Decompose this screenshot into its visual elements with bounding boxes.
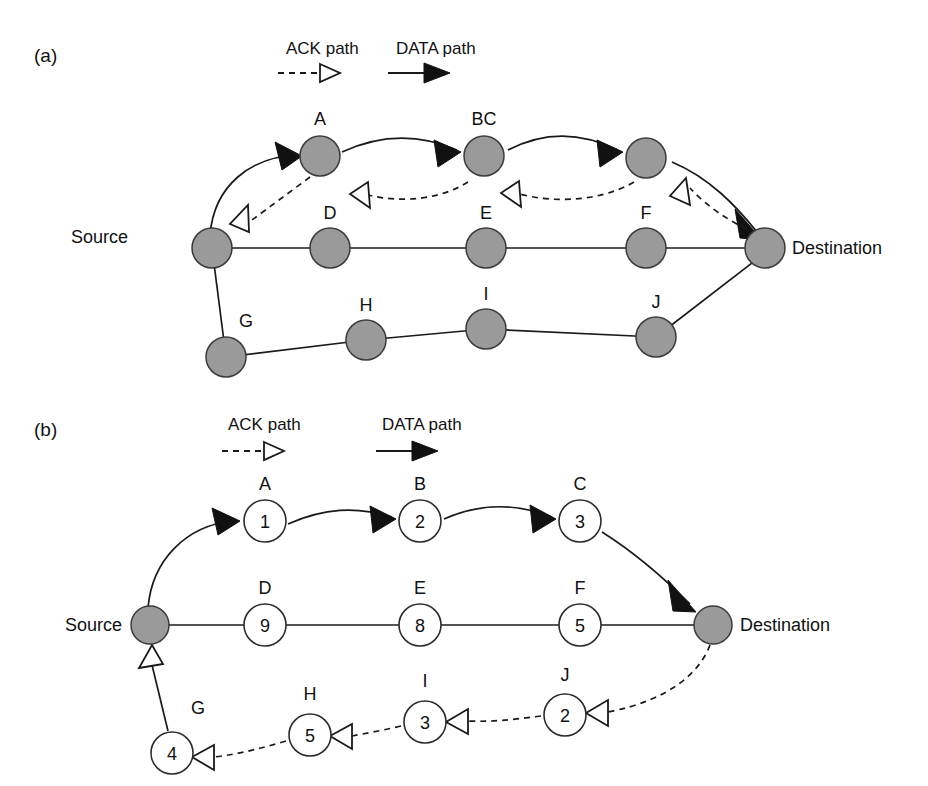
label-b-mid-2: E (414, 578, 426, 598)
node-source-b[interactable] (131, 606, 169, 644)
data-arrow-a-bc (434, 140, 461, 167)
label-a-mid-3: F (641, 203, 652, 223)
ack-edge-b-h-g (214, 741, 286, 757)
ack-edge-bc-a (368, 182, 468, 199)
label-b-bot-4: J (561, 665, 570, 685)
data-arrow-b-c-destination (668, 580, 696, 612)
label-a-top-1: A (314, 109, 326, 129)
ack-arrow-b-h-g (192, 745, 214, 770)
panel-a: (a) ACK path DATA path (34, 39, 882, 377)
data-arrow-b-b-c (530, 505, 556, 533)
label-b-mid-3: F (575, 578, 586, 598)
label-b-top-2: B (414, 474, 426, 494)
ack-arrow-b-j-i (446, 709, 468, 734)
ack-edge-b-i-h (352, 726, 401, 736)
ack-arrow-next-bc (501, 181, 521, 207)
ack-edge-b-j-i (468, 716, 541, 721)
data-arrow-b-source-a (212, 508, 240, 535)
label-a-bot-1: G (239, 311, 253, 331)
ack-arrow-b-i-h (330, 724, 352, 749)
label-a-mid-1: D (324, 203, 337, 223)
ack-arrow-destination-next (670, 178, 690, 205)
label-a-top-2: BC (471, 109, 496, 129)
label-b-top-3: C (574, 474, 587, 494)
figure-canvas: (a) ACK path DATA path (0, 0, 928, 786)
legend-ack-label-b: ACK path (228, 415, 301, 434)
legend-ack-arrow-icon-b (264, 442, 284, 460)
panel-a-legend: ACK path DATA path (278, 39, 476, 83)
label-source-a: Source (71, 227, 128, 247)
label-a-bot-4: J (652, 292, 661, 312)
ack-arrow-b-g-source (139, 645, 163, 668)
node-a-bot-4[interactable] (636, 317, 676, 357)
value-b-mid-2: 8 (415, 616, 425, 636)
data-arrow-bc-next (597, 140, 623, 167)
node-a-top-3[interactable] (626, 138, 666, 178)
edge-g-h (226, 340, 366, 357)
label-destination-b: Destination (740, 615, 830, 635)
legend-data-arrow-icon-b (412, 441, 438, 461)
ack-edge-next-bc (520, 182, 634, 199)
legend-data-label-b: DATA path (382, 415, 462, 434)
value-b-bot-1: 4 (167, 744, 177, 764)
value-b-bot-4: 2 (560, 706, 570, 726)
node-a-mid-2[interactable] (466, 228, 506, 268)
legend-ack-arrow-icon-a (320, 64, 340, 82)
label-b-bot-1: G (191, 698, 205, 718)
node-source-a[interactable] (192, 228, 232, 268)
data-arrow-source-a (275, 142, 302, 170)
value-b-top-3: 3 (575, 512, 585, 532)
figure-root: (a) ACK path DATA path (0, 0, 928, 786)
node-a-top-2[interactable] (464, 136, 504, 176)
panel-a-ack-path (230, 177, 757, 234)
label-b-bot-3: I (422, 671, 427, 691)
panel-b: (b) ACK path DATA path (34, 415, 830, 774)
node-a-bot-2[interactable] (346, 320, 386, 360)
legend-data-arrow-icon-a (424, 63, 450, 83)
value-b-bot-2: 5 (305, 726, 315, 746)
data-arrow-b-a-b (370, 506, 396, 533)
edge-i-j (486, 329, 656, 337)
label-a-bot-2: H (360, 295, 373, 315)
label-b-mid-1: D (259, 578, 272, 598)
label-b-bot-2: H (304, 684, 317, 704)
ack-edge-a-source (252, 177, 310, 220)
panel-a-label: (a) (34, 45, 57, 66)
node-destination-a[interactable] (745, 228, 785, 268)
label-source-b: Source (65, 615, 122, 635)
node-a-top-1[interactable] (300, 136, 340, 176)
ack-edge-b-g-source (152, 665, 168, 731)
value-b-top-2: 2 (415, 512, 425, 532)
ack-edge-b-destination-j (608, 645, 710, 712)
ack-arrow-a-source (230, 205, 249, 232)
node-a-mid-3[interactable] (626, 228, 666, 268)
value-b-top-1: 1 (260, 512, 270, 532)
ack-arrow-bc-a (350, 182, 370, 208)
legend-data-label-a: DATA path (396, 39, 476, 58)
label-a-bot-3: I (483, 284, 488, 304)
node-a-mid-1[interactable] (310, 228, 350, 268)
node-destination-b[interactable] (694, 606, 732, 644)
panel-b-legend: ACK path DATA path (222, 415, 462, 461)
panel-b-label: (b) (34, 419, 57, 440)
value-b-mid-1: 9 (260, 616, 270, 636)
label-a-mid-2: E (480, 203, 492, 223)
value-b-bot-3: 3 (420, 713, 430, 733)
value-b-mid-3: 5 (575, 616, 585, 636)
node-a-bot-1[interactable] (206, 337, 246, 377)
node-a-bot-3[interactable] (466, 309, 506, 349)
ack-arrow-b-destination-j (586, 700, 608, 726)
label-b-top-1: A (259, 474, 271, 494)
label-destination-a: Destination (792, 238, 882, 258)
legend-ack-label-a: ACK path (286, 39, 359, 58)
